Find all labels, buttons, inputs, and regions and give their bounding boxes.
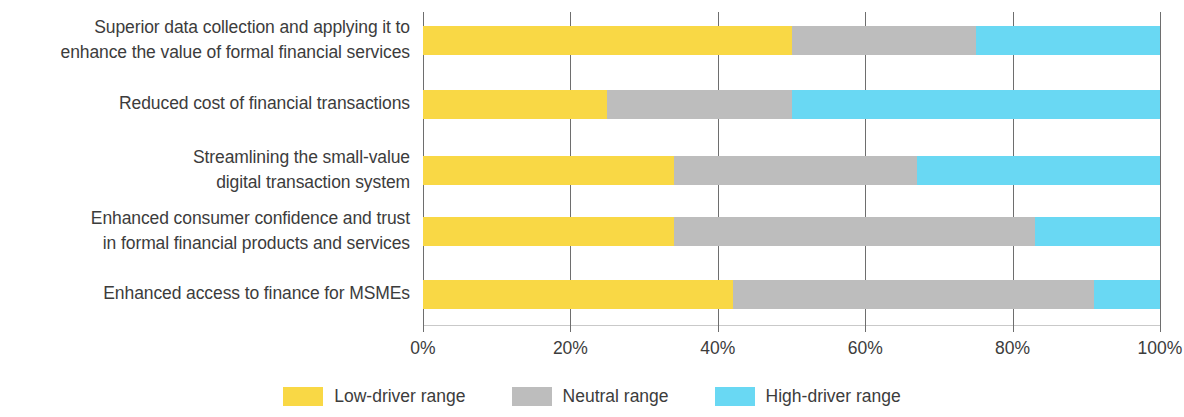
- x-axis-tick-label: 100%: [1138, 338, 1183, 359]
- x-axis-tick: [718, 325, 719, 332]
- stacked-bar-chart: Superior data collection and applying it…: [0, 0, 1184, 417]
- category-label-line: Streamlining the small-value: [0, 145, 410, 170]
- bar-segment-low-driver-range: [423, 26, 792, 55]
- category-label-line: Enhanced consumer confidence and trust: [0, 206, 410, 231]
- bar-segment-high-driver-range: [792, 90, 1161, 119]
- legend-item: Low-driver range: [283, 386, 465, 407]
- category-label: Enhanced access to finance for MSMEs: [0, 281, 410, 306]
- bar-row: [423, 217, 1160, 246]
- category-label-line: Reduced cost of financial transactions: [0, 91, 410, 116]
- legend-swatch-icon: [512, 387, 552, 406]
- bar-segment-neutral-range: [607, 90, 791, 119]
- x-axis-tick: [570, 325, 571, 332]
- plot-area: [423, 12, 1160, 325]
- bar-segment-high-driver-range: [917, 156, 1160, 185]
- category-label-line: Enhanced access to finance for MSMEs: [0, 281, 410, 306]
- x-axis-tick: [865, 325, 866, 332]
- category-label-group: Superior data collection and applying it…: [0, 12, 410, 325]
- x-axis-tick-label: 80%: [995, 338, 1030, 359]
- category-label: Reduced cost of financial transactions: [0, 91, 410, 116]
- x-axis-tick: [1160, 325, 1161, 332]
- category-label-line: enhance the value of formal financial se…: [0, 40, 410, 65]
- bar-segment-neutral-range: [792, 26, 976, 55]
- legend-swatch-icon: [283, 387, 323, 406]
- category-label: Superior data collection and applying it…: [0, 15, 410, 65]
- x-axis-tick: [423, 325, 424, 332]
- gridline-100: [1160, 12, 1161, 325]
- bar-segment-low-driver-range: [423, 280, 733, 309]
- legend-label: High-driver range: [766, 386, 901, 407]
- legend-item: Neutral range: [512, 386, 669, 407]
- bar-segment-high-driver-range: [1094, 280, 1160, 309]
- bar-row: [423, 280, 1160, 309]
- category-label-line: digital transaction system: [0, 170, 410, 195]
- bar-segment-high-driver-range: [1035, 217, 1160, 246]
- category-label: Enhanced consumer confidence and trustin…: [0, 206, 410, 256]
- category-label-line: Superior data collection and applying it…: [0, 15, 410, 40]
- x-axis-tick-label: 0%: [410, 338, 435, 359]
- x-axis-tick: [1013, 325, 1014, 332]
- legend-item: High-driver range: [715, 386, 901, 407]
- bar-segment-neutral-range: [674, 156, 917, 185]
- bar-segment-neutral-range: [674, 217, 1035, 246]
- bar-row: [423, 26, 1160, 55]
- legend-label: Low-driver range: [334, 386, 465, 407]
- bar-segment-high-driver-range: [976, 26, 1160, 55]
- x-axis-tick-label: 20%: [553, 338, 588, 359]
- bar-row: [423, 90, 1160, 119]
- category-label-line: in formal financial products and service…: [0, 231, 410, 256]
- legend-swatch-icon: [715, 387, 755, 406]
- x-axis-line: [423, 325, 1160, 326]
- bar-row-group: [423, 12, 1160, 325]
- bar-segment-neutral-range: [733, 280, 1094, 309]
- chart-legend: Low-driver rangeNeutral rangeHigh-driver…: [0, 386, 1184, 407]
- legend-label: Neutral range: [563, 386, 669, 407]
- bar-segment-low-driver-range: [423, 156, 674, 185]
- bar-segment-low-driver-range: [423, 90, 607, 119]
- x-axis-tick-label: 60%: [848, 338, 883, 359]
- bar-row: [423, 156, 1160, 185]
- category-label: Streamlining the small-valuedigital tran…: [0, 145, 410, 195]
- bar-segment-low-driver-range: [423, 217, 674, 246]
- x-axis-tick-label: 40%: [700, 338, 735, 359]
